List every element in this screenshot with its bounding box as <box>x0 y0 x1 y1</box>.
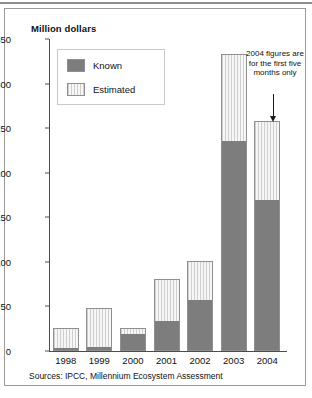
chart-annotation: 2004 figures are for the first five mont… <box>242 49 308 78</box>
bar-segment-estimated <box>188 262 212 300</box>
legend-item-known: Known <box>67 59 122 72</box>
y-axis-labels: 050100150200250300350 <box>5 39 49 352</box>
y-axis-tick-label: 300 <box>0 78 11 89</box>
y-axis-tick-label: 0 <box>6 346 11 357</box>
bar-segment-known <box>255 200 279 350</box>
bar-segment-known <box>188 300 212 350</box>
y-axis-tick-label: 350 <box>0 34 11 45</box>
bar-segment-estimated <box>155 280 179 322</box>
x-axis-tick-label: 2004 <box>244 355 290 366</box>
bar-segment-estimated <box>54 329 78 349</box>
chart-legend: Known Estimated <box>57 49 165 105</box>
bar-segment-known <box>54 348 78 350</box>
y-axis-tick-label: 50 <box>0 301 11 312</box>
legend-label-known: Known <box>93 60 122 71</box>
y-axis-tick-label: 250 <box>0 123 11 134</box>
chart-figure: Million dollars 050100150200250300350 Kn… <box>4 8 306 386</box>
legend-swatch-estimated-icon <box>67 83 85 96</box>
y-axis-title: Million dollars <box>31 23 96 34</box>
legend-item-estimated: Estimated <box>67 83 135 96</box>
bar-segment-known <box>155 321 179 350</box>
bar-segment-estimated <box>255 122 279 200</box>
bar-segment-known <box>222 141 246 350</box>
legend-swatch-known-icon <box>67 59 85 72</box>
legend-label-estimated: Estimated <box>93 84 135 95</box>
bar-2003 <box>221 54 247 351</box>
y-axis-tick-label: 200 <box>0 167 11 178</box>
bar-2000 <box>120 328 146 351</box>
y-axis-tick-label: 150 <box>0 212 11 223</box>
bar-segment-known <box>87 347 111 350</box>
bar-2004 <box>254 121 280 351</box>
page-rule <box>0 2 312 4</box>
bar-1998 <box>53 328 79 351</box>
annotation-arrow-icon <box>270 116 276 122</box>
annotation-leader-line <box>273 94 274 118</box>
y-axis-tick-label: 100 <box>0 256 11 267</box>
bar-segment-known <box>121 334 145 350</box>
bar-2001 <box>154 279 180 351</box>
x-axis-line <box>49 351 287 352</box>
bar-1999 <box>86 308 112 351</box>
bar-2002 <box>187 261 213 351</box>
bar-segment-estimated <box>87 309 111 346</box>
source-note: Sources: IPCC, Millennium Ecosystem Asse… <box>29 371 223 381</box>
